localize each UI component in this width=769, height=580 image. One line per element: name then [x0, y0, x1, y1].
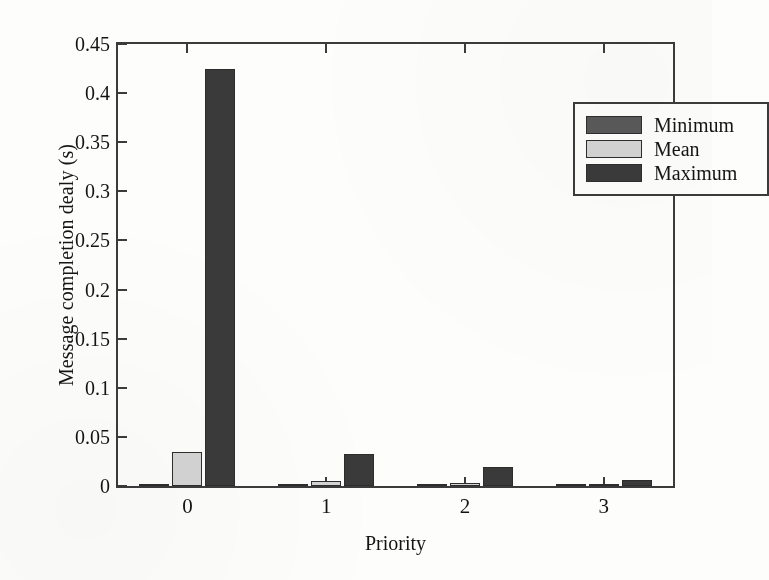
x-axis-title: Priority	[116, 532, 675, 555]
x-tick-mark-top	[325, 44, 327, 53]
y-tick-label: 0.05	[75, 427, 110, 447]
bar-minimum-priority-0	[139, 484, 169, 487]
y-tick-mark	[118, 289, 127, 291]
x-tick-mark-top	[464, 44, 466, 53]
legend-item-maximum: Maximum	[586, 161, 757, 185]
y-tick-mark	[118, 43, 127, 45]
bar-mean-priority-3	[589, 484, 619, 487]
legend-label-mean: Mean	[654, 139, 700, 159]
y-tick-label: 0.4	[85, 83, 110, 103]
bar-maximum-priority-0	[205, 69, 235, 486]
y-tick-label: 0.25	[75, 230, 110, 250]
x-tick-label: 1	[321, 496, 332, 517]
y-axis-title: Message completion dealy (s)	[46, 42, 86, 488]
y-tick-label: 0.15	[75, 329, 110, 349]
x-tick-label: 0	[182, 496, 193, 517]
y-tick-label: 0.35	[75, 132, 110, 152]
x-tick-mark-top	[603, 44, 605, 53]
x-tick-label: 3	[598, 496, 609, 517]
y-tick-label: 0.1	[85, 378, 110, 398]
legend-swatch-maximum	[586, 164, 642, 182]
bar-mean-priority-1	[311, 481, 341, 486]
bar-maximum-priority-2	[483, 467, 513, 486]
y-tick-mark	[118, 485, 127, 487]
y-tick-mark	[118, 141, 127, 143]
x-tick-label: 2	[460, 496, 471, 517]
y-tick-label: 0.3	[85, 181, 110, 201]
bar-minimum-priority-3	[556, 484, 586, 487]
plot-frame: 00.050.10.150.20.250.30.350.40.45 0123 M…	[116, 42, 675, 488]
bar-mean-priority-0	[172, 452, 202, 486]
legend-item-minimum: Minimum	[586, 113, 757, 137]
bar-minimum-priority-1	[278, 484, 308, 487]
legend-label-maximum: Maximum	[654, 163, 737, 183]
bar-maximum-priority-1	[344, 454, 374, 486]
chart-legend: MinimumMeanMaximum	[573, 102, 769, 196]
x-tick-mark-top	[186, 44, 188, 53]
legend-label-minimum: Minimum	[654, 115, 734, 135]
y-tick-mark	[118, 387, 127, 389]
y-tick-mark	[118, 239, 127, 241]
bar-minimum-priority-2	[417, 484, 447, 487]
y-tick-mark	[118, 92, 127, 94]
legend-item-mean: Mean	[586, 137, 757, 161]
y-tick-mark	[118, 338, 127, 340]
y-tick-label: 0.2	[85, 280, 110, 300]
legend-swatch-mean	[586, 140, 642, 158]
bar-maximum-priority-3	[622, 480, 652, 486]
bar-mean-priority-2	[450, 483, 480, 486]
y-tick-label: 0.45	[75, 34, 110, 54]
y-tick-mark	[118, 436, 127, 438]
y-tick-mark	[118, 190, 127, 192]
legend-swatch-minimum	[586, 116, 642, 134]
y-tick-label: 0	[100, 476, 110, 496]
